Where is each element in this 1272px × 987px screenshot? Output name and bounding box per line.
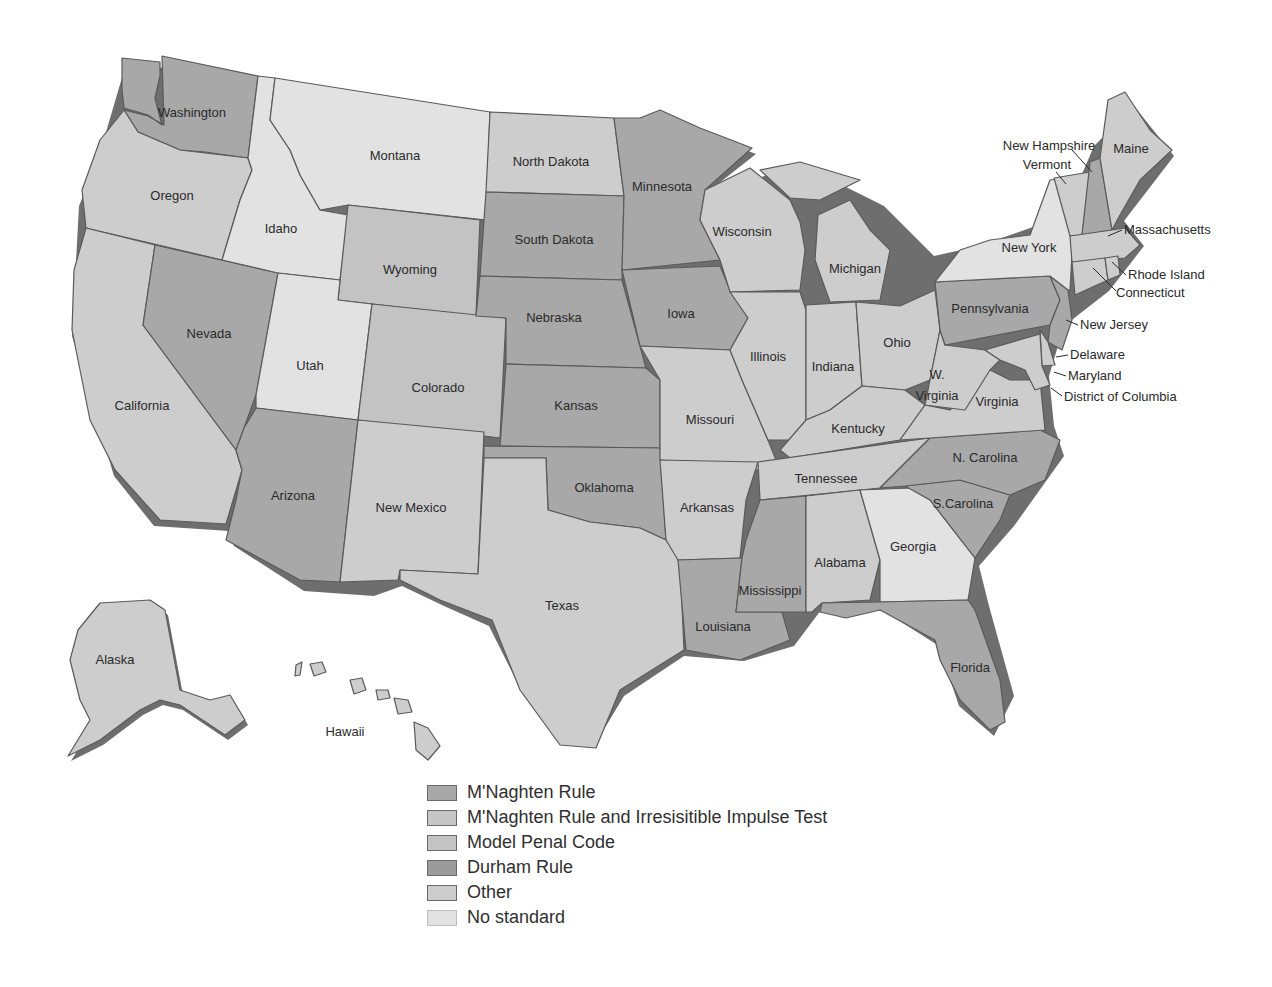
label-montana: Montana (370, 148, 421, 163)
label-south-dakota: South Dakota (515, 232, 595, 247)
label-maine: Maine (1113, 141, 1148, 156)
legend-swatch-durham (427, 860, 457, 876)
label-indiana: Indiana (812, 359, 855, 374)
legend-label: M'Naghten Rule (467, 782, 596, 803)
leader-dc (1051, 388, 1062, 396)
leader-maryland (1054, 372, 1066, 376)
label-minnesota: Minnesota (632, 179, 693, 194)
label-colorado: Colorado (412, 380, 465, 395)
state-hawaii-island-2[interactable] (310, 662, 326, 676)
label-district-of-columbia: District of Columbia (1064, 389, 1177, 404)
label-mississippi: Mississippi (739, 583, 802, 598)
hawaii-group (295, 662, 440, 760)
legend-label: Durham Rule (467, 857, 573, 878)
label-kentucky: Kentucky (831, 421, 885, 436)
legend-item-no-standard: No standard (427, 905, 827, 930)
leader-delaware (1056, 355, 1068, 357)
legend-label: Other (467, 882, 512, 903)
label-idaho: Idaho (265, 221, 298, 236)
label-vermont: Vermont (1023, 157, 1072, 172)
label-louisiana: Louisiana (695, 619, 751, 634)
label-missouri: Missouri (686, 412, 735, 427)
label-rhode-island: Rhode Island (1128, 267, 1205, 282)
label-massachusetts: Massachusetts (1124, 222, 1211, 237)
legend-item-model-penal-code: Model Penal Code (427, 830, 827, 855)
legend-swatch-mnaghten (427, 785, 457, 801)
legend-item-mnaghten: M'Naghten Rule (427, 780, 827, 805)
label-arkansas: Arkansas (680, 500, 735, 515)
label-new-york: New York (1002, 240, 1057, 255)
legend-swatch-other (427, 885, 457, 901)
label-kansas: Kansas (554, 398, 598, 413)
label-tennessee: Tennessee (795, 471, 858, 486)
legend-label: Model Penal Code (467, 832, 615, 853)
legend-item-other: Other (427, 880, 827, 905)
label-hawaii: Hawaii (325, 724, 364, 739)
label-north-dakota: North Dakota (513, 154, 590, 169)
label-new-hampshire: New Hampshire (1003, 138, 1095, 153)
label-virginia: Virginia (975, 394, 1019, 409)
legend-item-durham: Durham Rule (427, 855, 827, 880)
label-alaska: Alaska (95, 652, 135, 667)
label-california: California (115, 398, 171, 413)
state-new-york[interactable] (935, 178, 1072, 290)
label-alabama: Alabama (814, 555, 866, 570)
state-hawaii-island-6[interactable] (414, 722, 440, 760)
legend-label: M'Naghten Rule and Irresisitible Impulse… (467, 807, 827, 828)
label-nebraska: Nebraska (526, 310, 582, 325)
state-wyoming[interactable] (338, 205, 480, 316)
legend: M'Naghten Rule M'Naghten Rule and Irresi… (427, 780, 827, 930)
label-illinois: Illinois (750, 349, 787, 364)
label-new-jersey: New Jersey (1080, 317, 1148, 332)
label-maryland: Maryland (1068, 368, 1121, 383)
state-hawaii-island-1[interactable] (295, 662, 302, 676)
state-hawaii-island-4[interactable] (376, 690, 390, 700)
legend-label: No standard (467, 907, 565, 928)
alaska-group (68, 600, 248, 761)
legend-item-mnaghten-irresistible: M'Naghten Rule and Irresisitible Impulse… (427, 805, 827, 830)
label-iowa: Iowa (667, 306, 695, 321)
state-hawaii-island-3[interactable] (350, 678, 366, 694)
label-oklahoma: Oklahoma (574, 480, 634, 495)
label-connecticut: Connecticut (1116, 285, 1185, 300)
label-new-mexico: New Mexico (376, 500, 447, 515)
label-wyoming: Wyoming (383, 262, 437, 277)
label-south-carolina: S.Carolina (933, 496, 994, 511)
label-texas: Texas (545, 598, 579, 613)
legend-swatch-no-standard (427, 910, 457, 926)
label-michigan: Michigan (829, 261, 881, 276)
label-west-virginia-line1: W. (929, 367, 944, 382)
label-florida: Florida (950, 660, 991, 675)
label-utah: Utah (296, 358, 323, 373)
label-delaware: Delaware (1070, 347, 1125, 362)
label-nevada: Nevada (187, 326, 233, 341)
label-north-carolina: N. Carolina (952, 450, 1018, 465)
label-georgia: Georgia (890, 539, 937, 554)
label-arizona: Arizona (271, 488, 316, 503)
state-colorado[interactable] (358, 304, 506, 438)
legend-swatch-mnaghten-irresistible (427, 810, 457, 826)
label-washington: Washington (158, 105, 226, 120)
label-wisconsin: Wisconsin (712, 224, 771, 239)
state-hawaii-island-5[interactable] (394, 698, 412, 714)
label-ohio: Ohio (883, 335, 910, 350)
legend-swatch-model-penal-code (427, 835, 457, 851)
label-oregon: Oregon (150, 188, 193, 203)
label-west-virginia-line2: Virginia (915, 388, 959, 403)
label-pennsylvania: Pennsylvania (951, 301, 1029, 316)
